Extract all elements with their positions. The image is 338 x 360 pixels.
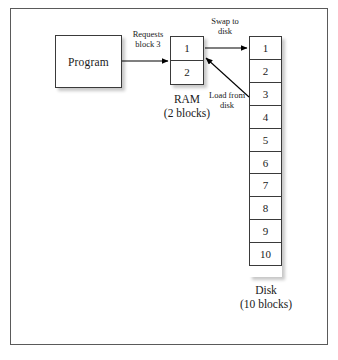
disk-block: 4: [249, 105, 282, 129]
disk-block: 9: [249, 219, 282, 243]
disk-caption-count: (10 blocks): [227, 297, 305, 311]
requests-label-line1: Requests: [122, 29, 174, 39]
disk-stack: 1 2 3 4 5 6 7 8 9 10: [249, 36, 282, 277]
disk-block: 3: [249, 82, 282, 106]
swap-to-disk-label: Swap to disk: [197, 16, 253, 36]
disk-block: 8: [249, 196, 282, 220]
disk-block: 10: [249, 242, 282, 266]
program-label: Program: [68, 56, 109, 68]
disk-block: 5: [249, 128, 282, 152]
swap-label-line2: disk: [197, 26, 253, 36]
ram-block: 1: [170, 36, 204, 61]
load-label-line1: Load from: [203, 90, 251, 100]
ram-block: 2: [170, 61, 204, 86]
ram-stack: 1 2: [170, 36, 204, 85]
load-label-line2: disk: [203, 100, 251, 110]
requests-block-label: Requests block 3: [122, 29, 174, 49]
program-box: Program: [55, 35, 122, 88]
requests-label-line2: block 3: [122, 39, 174, 49]
disk-block: 1: [249, 36, 282, 60]
disk-caption: Disk (10 blocks): [227, 283, 305, 311]
disk-block: 7: [249, 173, 282, 197]
virtual-memory-diagram: Program 1 2 RAM (2 blocks) 1 2 3 4 5 6 7…: [0, 0, 338, 360]
swap-label-line1: Swap to: [197, 16, 253, 26]
disk-caption-name: Disk: [227, 283, 305, 297]
disk-block: 6: [249, 151, 282, 175]
disk-block: 2: [249, 59, 282, 83]
load-from-disk-label: Load from disk: [203, 90, 251, 110]
